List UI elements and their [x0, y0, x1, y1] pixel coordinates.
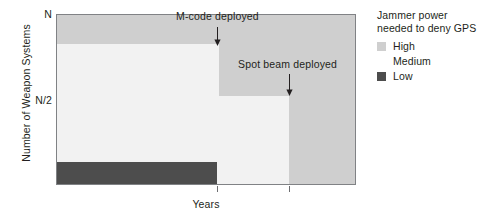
legend-label-high: High: [393, 40, 415, 53]
legend-title-line-2: needed to deny GPS: [377, 22, 485, 35]
x-tick-mark-mcode: [217, 186, 218, 192]
legend-item-high: High: [377, 39, 485, 54]
legend-item-medium: Medium: [377, 54, 485, 69]
annotation-label-mcode-deployed: M-code deployed: [176, 10, 259, 23]
chart-figure: Number of Weapon Systems N N/2 Years M-c…: [0, 0, 488, 222]
x-axis-title: Years: [56, 198, 356, 211]
x-tick-mark-spotbeam: [289, 186, 290, 192]
legend: Jammer power needed to deny GPS High Med…: [377, 9, 485, 84]
annotation-label-spot-beam-deployed: Spot beam deployed: [238, 58, 337, 71]
annotation-arrow-mcode-deployed: [213, 27, 222, 46]
legend-title-line-1: Jammer power: [377, 9, 485, 22]
y-tick-label-n-half: N/2: [8, 94, 52, 106]
legend-swatch-high: [377, 42, 386, 51]
region-low: [57, 162, 217, 184]
y-axis-title: Number of Weapon Systems: [19, 0, 33, 186]
legend-title: Jammer power needed to deny GPS: [377, 9, 485, 35]
legend-swatch-medium: [377, 57, 386, 66]
annotation-arrow-spot-beam-deployed: [285, 74, 294, 96]
y-tick-label-n: N: [8, 8, 52, 20]
legend-swatch-low: [377, 72, 386, 81]
plot-area: [56, 14, 356, 185]
legend-label-medium: Medium: [393, 55, 431, 68]
legend-item-low: Low: [377, 69, 485, 84]
legend-label-low: Low: [393, 70, 413, 83]
